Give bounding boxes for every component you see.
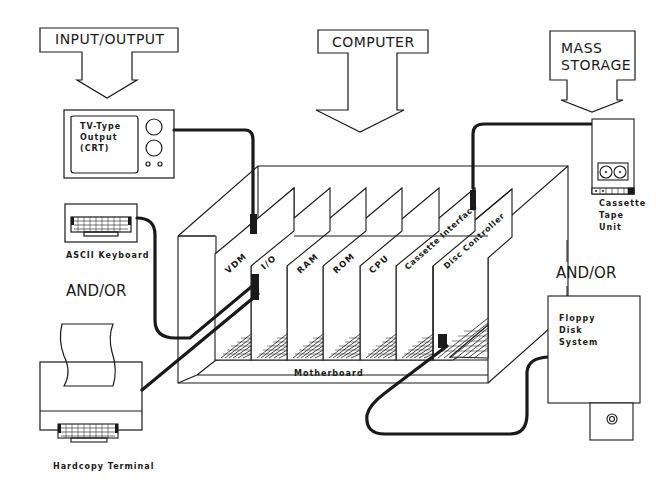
- connector-disc: [438, 334, 447, 348]
- connector-io-2: [251, 287, 259, 300]
- connector-vdm: [250, 214, 257, 234]
- crt-label: TV-Type Output (CRT): [80, 121, 121, 154]
- floppy-label: Floppy Disk System: [559, 313, 598, 349]
- mass-storage-label: MASS STORAGE: [561, 40, 631, 74]
- andor-right-label: AND/OR: [556, 264, 616, 282]
- hardcopy-label: Hardcopy Terminal: [53, 461, 154, 472]
- keyboard-label: ASCII Keyboard: [66, 250, 150, 261]
- cassette-label: Cassette Tape Unit: [599, 198, 646, 234]
- cable-cassette-interface: [473, 124, 592, 188]
- computer-label: COMPUTER: [332, 34, 415, 50]
- motherboard-label: Motherboard: [294, 368, 364, 379]
- cable-crt-vdm: [174, 130, 253, 216]
- connector-io-1: [251, 274, 259, 288]
- andor-left-label: AND/OR: [66, 282, 126, 300]
- input-output-label: INPUT/OUTPUT: [55, 31, 165, 47]
- cassette-tape-unit: [592, 119, 634, 194]
